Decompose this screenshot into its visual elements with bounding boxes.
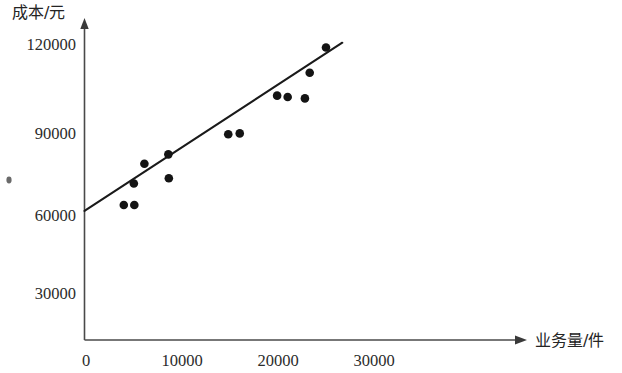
y-axis-title: 成本/元: [12, 3, 65, 22]
data-point: [119, 201, 128, 210]
y-axis-arrow-icon: [80, 18, 88, 29]
data-point: [130, 201, 139, 210]
y-axis: [80, 18, 88, 340]
data-point: [273, 91, 282, 100]
data-point: [305, 68, 314, 77]
data-point: [164, 150, 173, 159]
data-point: [140, 159, 149, 168]
data-point: [235, 129, 244, 138]
data-point: [165, 174, 174, 183]
x-tick-label-30000: 30000: [353, 351, 394, 370]
x-axis-arrow-icon: [515, 336, 527, 345]
regression-trend-line: [85, 43, 343, 211]
scatter-plot-figure: 120000 90000 60000 30000 0 10000 20000 3…: [0, 0, 622, 373]
x-axis-title: 业务量/件: [535, 331, 604, 350]
x-tick-label-20000: 20000: [257, 351, 298, 370]
plot-canvas: 120000 90000 60000 30000 0 10000 20000 3…: [0, 0, 622, 373]
data-point: [130, 179, 139, 188]
y-tick-label-30000: 30000: [35, 284, 76, 303]
data-points-layer: [119, 43, 330, 209]
y-tick-label-90000: 90000: [35, 124, 76, 143]
data-point: [301, 94, 310, 103]
data-point: [224, 130, 233, 139]
scan-artifact-mark: [6, 177, 11, 184]
x-axis: [85, 336, 528, 345]
x-tick-label-0: 0: [82, 351, 90, 370]
data-point: [283, 93, 292, 102]
y-tick-label-60000: 60000: [35, 206, 76, 225]
y-tick-label-120000: 120000: [27, 35, 77, 54]
x-tick-label-10000: 10000: [161, 351, 202, 370]
data-point: [322, 43, 331, 52]
